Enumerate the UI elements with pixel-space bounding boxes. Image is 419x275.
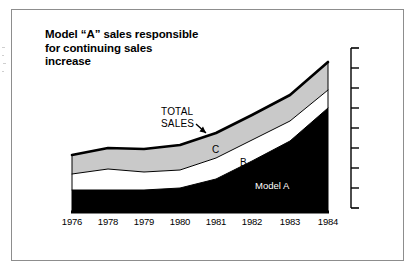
x-axis-label: 1980 <box>170 216 190 227</box>
x-axis-label: 1979 <box>134 216 154 227</box>
annotation-series-b: B <box>240 157 247 169</box>
annotation-series-c: C <box>212 144 219 156</box>
figure-container: Model “A” sales responsible for continui… <box>0 0 419 275</box>
stacked-area-plot <box>0 0 419 275</box>
total-sales-arrow <box>196 124 206 133</box>
x-axis-label: 1978 <box>98 216 118 227</box>
x-axis-label: 1981 <box>206 216 226 227</box>
x-axis-labels: 19761978197919801981198219831984 <box>0 216 419 230</box>
annotation-total-sales-line-2: SALES <box>161 118 194 130</box>
x-axis-label: 1984 <box>318 216 338 227</box>
annotation-total-sales: TOTAL SALES <box>161 106 194 129</box>
x-axis-label: 1983 <box>280 216 300 227</box>
x-axis-label: 1982 <box>242 216 262 227</box>
annotation-series-a: Model A <box>255 180 289 192</box>
value-axis <box>351 48 359 208</box>
annotation-total-sales-line-1: TOTAL <box>161 106 194 118</box>
x-axis-label: 1976 <box>62 216 82 227</box>
